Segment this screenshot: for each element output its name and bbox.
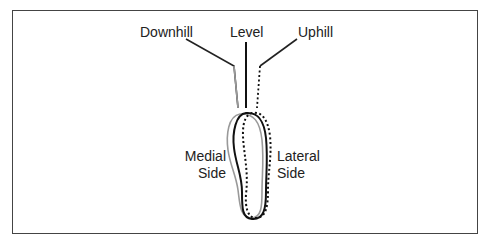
- level-label: Level: [230, 24, 263, 41]
- medial-label-line2: Side: [175, 165, 226, 182]
- uphill-leader: [257, 39, 297, 108]
- uphill-label: Uphill: [298, 24, 333, 41]
- medial-side-label: Medial Side: [175, 148, 226, 182]
- lateral-side-label: Lateral Side: [277, 148, 320, 182]
- lateral-label-line1: Lateral: [277, 148, 320, 165]
- downhill-leader: [186, 39, 238, 108]
- downhill-label: Downhill: [140, 24, 193, 41]
- medial-label-line1: Medial: [175, 148, 226, 165]
- lateral-label-line2: Side: [277, 165, 320, 182]
- downhill-footprint: [227, 114, 263, 218]
